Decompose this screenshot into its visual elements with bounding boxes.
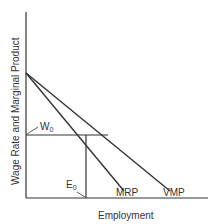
wage-label: W0	[40, 121, 53, 133]
vmp-curve	[26, 73, 170, 191]
mrp-label: MRP	[116, 187, 139, 198]
labor-market-diagram: W0 E0 MRP VMP Employment Wage Rate and M…	[0, 0, 219, 224]
employment-leader	[77, 192, 85, 197]
vmp-label: VMP	[163, 187, 185, 198]
employment-label: E0	[66, 179, 77, 191]
wage-leader	[27, 127, 38, 134]
y-axis-label: Wage Rate and Marginal Product	[10, 37, 21, 185]
mrp-curve	[26, 73, 124, 191]
x-axis-label: Employment	[98, 210, 154, 221]
